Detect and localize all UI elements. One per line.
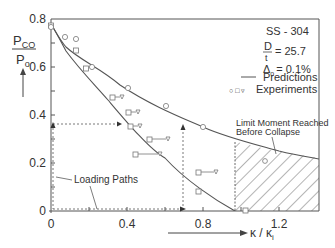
limit-moment-region: [235, 141, 319, 211]
legend-experiments: Experiments: [256, 83, 318, 95]
y-tick-0: 0: [39, 204, 46, 218]
dt-numerator: D: [264, 40, 272, 52]
svg-text:Po: Po: [16, 52, 30, 69]
chart: 0 0.4 0.8 1.2 0 0.2 0.4 0.6 0.8 PCO Po κ…: [0, 0, 335, 248]
x-tick-0: 0: [48, 217, 55, 231]
svg-text:κ / κi: κ / κi: [250, 226, 274, 242]
y-tick-0-4: 0.4: [29, 108, 46, 122]
svg-text:PCO: PCO: [13, 33, 35, 50]
y-tick-0-2: 0.2: [29, 156, 46, 170]
legend: SS - 304 D t = 25.7 Δo= 0.1% Predictions…: [229, 25, 318, 95]
dt-denominator: t: [265, 53, 268, 63]
svg-text:Before Collapse: Before Collapse: [236, 127, 300, 137]
y-tick-0-6: 0.6: [29, 60, 46, 74]
loading-path-arrows: [51, 122, 187, 212]
dt-value: = 25.7: [275, 45, 306, 57]
loading-paths-annotation: Loading Paths: [56, 174, 138, 209]
loading-paths: [53, 124, 183, 209]
x-tick-1-2: 1.2: [271, 217, 288, 231]
legend-marker-icons: ○ □ ▿: [229, 87, 245, 94]
y-tick-0-8: 0.8: [29, 12, 46, 26]
x-axis-label: κ / κi: [168, 226, 274, 242]
material-label: SS - 304: [266, 25, 309, 37]
x-tick-0-4: 0.4: [119, 217, 136, 231]
legend-predictions: Predictions: [263, 71, 318, 83]
x-tick-0-8: 0.8: [195, 217, 212, 231]
svg-text:Loading Paths: Loading Paths: [74, 174, 138, 185]
